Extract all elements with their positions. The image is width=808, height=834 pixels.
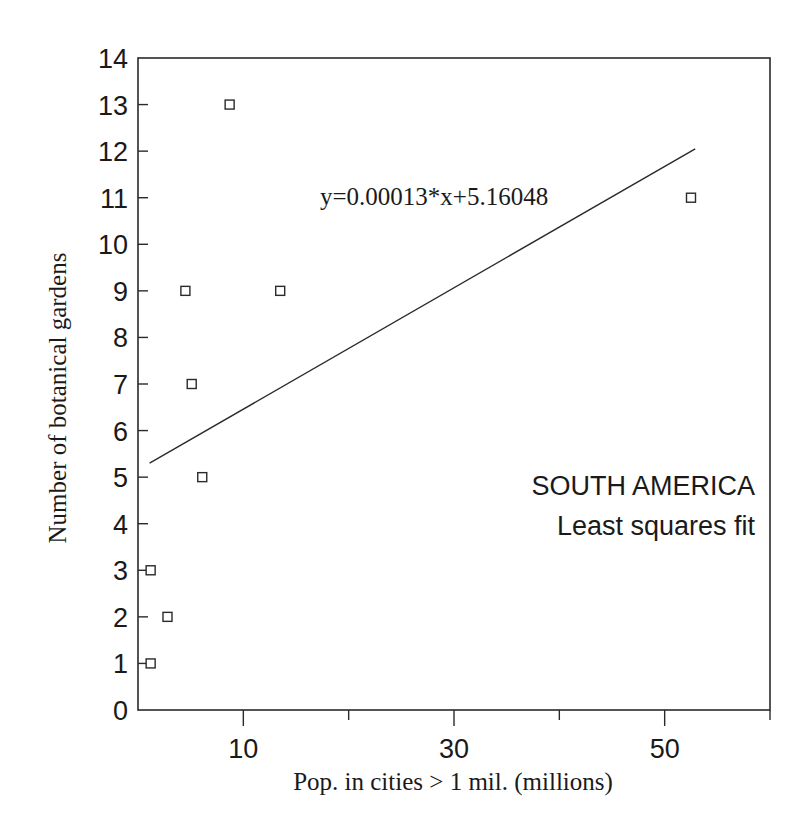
- x-tick-label: 10: [228, 734, 258, 764]
- data-point-square-marker: [276, 286, 285, 295]
- y-tick-label: 9: [113, 277, 128, 307]
- y-tick-label: 0: [113, 696, 128, 726]
- data-point-square-marker: [163, 612, 172, 621]
- y-axis-title: Number of botanical gardens: [44, 253, 71, 544]
- x-tick-label: 50: [650, 734, 680, 764]
- y-tick-label: 2: [113, 603, 128, 633]
- data-point-square-marker: [687, 193, 696, 202]
- y-tick-label: 5: [113, 463, 128, 493]
- x-tick-label: 30: [439, 734, 469, 764]
- data-point-square-marker: [146, 566, 155, 575]
- scatter-chart: 01234567891011121314 103050 y=0.00013*x+…: [0, 0, 808, 834]
- region-label: SOUTH AMERICA: [531, 471, 755, 501]
- x-axis-title: Pop. in cities > 1 mil. (millions): [293, 768, 613, 796]
- method-label: Least squares fit: [557, 511, 756, 541]
- plot-frame: [138, 58, 770, 710]
- y-tick-label: 4: [113, 510, 128, 540]
- y-tick-label: 14: [98, 44, 128, 74]
- x-axis-tick-labels: 103050: [228, 734, 679, 764]
- x-axis-ticks: [243, 710, 770, 726]
- y-tick-label: 12: [98, 137, 128, 167]
- y-tick-label: 3: [113, 556, 128, 586]
- fit-equation: y=0.00013*x+5.16048: [320, 183, 548, 210]
- y-tick-label: 13: [98, 91, 128, 121]
- data-point-square-marker: [181, 286, 190, 295]
- data-point-square-marker: [225, 100, 234, 109]
- y-axis-ticks: [138, 105, 148, 664]
- y-tick-label: 11: [100, 184, 128, 214]
- y-tick-label: 7: [113, 370, 128, 400]
- y-tick-label: 8: [113, 323, 128, 353]
- data-point-square-marker: [146, 659, 155, 668]
- data-point-square-marker: [187, 380, 196, 389]
- y-tick-label: 1: [113, 649, 128, 679]
- y-tick-label: 10: [98, 230, 128, 260]
- y-tick-label: 6: [113, 417, 128, 447]
- data-point-square-marker: [198, 473, 207, 482]
- y-axis-tick-labels: 01234567891011121314: [98, 44, 128, 726]
